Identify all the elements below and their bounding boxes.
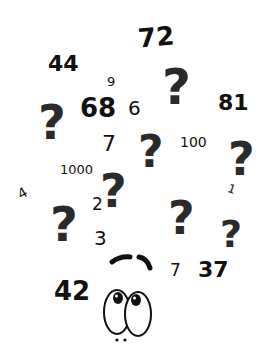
left-pupil — [113, 292, 123, 304]
right-eyebrow — [139, 257, 150, 268]
right-pupil — [131, 294, 141, 306]
nose-dot — [123, 338, 126, 341]
confused-doodle-illustration: ???????? 724496868171001000421373742 — [0, 0, 277, 352]
confused-face — [0, 0, 277, 352]
left-eyebrow — [112, 257, 130, 262]
nose-dot — [115, 338, 118, 341]
